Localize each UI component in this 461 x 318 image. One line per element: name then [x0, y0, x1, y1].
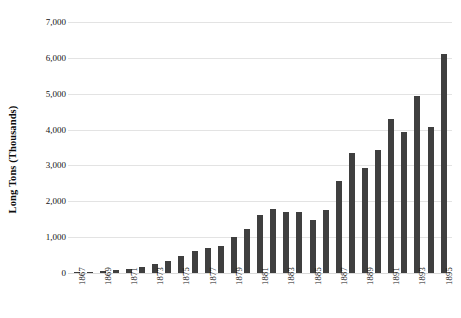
bar-slot [293, 22, 306, 273]
bar-slot [70, 22, 83, 273]
y-tick-label: 6,000 [26, 53, 66, 63]
x-tick-slot [240, 276, 253, 318]
bar-slot [122, 22, 135, 273]
bar [323, 210, 329, 273]
y-axis-title: Long Tons (Thousands) [0, 0, 26, 318]
x-tick-slot [162, 276, 175, 318]
x-tick-slot: 1887 [332, 276, 345, 318]
x-tick-slot [424, 276, 437, 318]
bar [87, 272, 93, 273]
y-axis-ticks: 7,0006,0005,0004,0003,0002,0001,0000 [26, 22, 66, 273]
bar [414, 96, 420, 273]
x-tick-slot [398, 276, 411, 318]
bar [296, 212, 302, 273]
x-tick-slot: 1867 [70, 276, 83, 318]
x-tick-slot [214, 276, 227, 318]
bar-slot [96, 22, 109, 273]
bar [388, 119, 394, 273]
bar [362, 168, 368, 273]
y-tick-label: 3,000 [26, 160, 66, 170]
bar-slot [411, 22, 424, 273]
bar-slot [372, 22, 385, 273]
bar [401, 132, 407, 273]
bar [270, 209, 276, 273]
bar-slot [201, 22, 214, 273]
bar [139, 267, 145, 273]
x-tick-slot [188, 276, 201, 318]
plot-area [68, 22, 452, 273]
x-tick-label: 1895 [444, 267, 454, 285]
bar-slot [398, 22, 411, 273]
y-tick-label: 1,000 [26, 232, 66, 242]
bar-slot [424, 22, 437, 273]
bar-slot [227, 22, 240, 273]
x-tick-slot: 1883 [280, 276, 293, 318]
bar-slot [162, 22, 175, 273]
x-tick-slot: 1885 [306, 276, 319, 318]
bar [192, 251, 198, 273]
x-tick-slot: 1869 [96, 276, 109, 318]
x-tick-slot: 1873 [149, 276, 162, 318]
bar-slot [267, 22, 280, 273]
x-tick-slot: 1893 [411, 276, 424, 318]
x-tick-slot: 1879 [227, 276, 240, 318]
x-axis-ticks: 1867186918711873187518771879188118831885… [68, 276, 452, 318]
x-tick-slot [109, 276, 122, 318]
bar-slot [149, 22, 162, 273]
x-tick-slot [136, 276, 149, 318]
bar-slot [306, 22, 319, 273]
x-tick-slot: 1875 [175, 276, 188, 318]
bar-slot [188, 22, 201, 273]
bar-slot [319, 22, 332, 273]
bar-slot [109, 22, 122, 273]
bar [283, 212, 289, 273]
y-axis-title-label: Long Tons (Thousands) [8, 105, 19, 213]
bar [349, 153, 355, 273]
x-tick-slot: 1891 [385, 276, 398, 318]
x-tick-slot: 1871 [122, 276, 135, 318]
bar [310, 220, 316, 273]
x-tick-slot [345, 276, 358, 318]
y-tick-label: 2,000 [26, 196, 66, 206]
bar-slot [214, 22, 227, 273]
bar-slot [332, 22, 345, 273]
y-tick-label: 5,000 [26, 89, 66, 99]
bar-slot [175, 22, 188, 273]
y-tick-label: 7,000 [26, 17, 66, 27]
bar [218, 246, 224, 273]
x-tick-slot [319, 276, 332, 318]
bar [375, 150, 381, 273]
bar-slot [254, 22, 267, 273]
bar [257, 215, 263, 273]
bar-slot [345, 22, 358, 273]
bar-chart: Long Tons (Thousands) 7,0006,0005,0004,0… [0, 0, 461, 318]
x-tick-slot: 1895 [437, 276, 450, 318]
x-tick-slot [372, 276, 385, 318]
bar-slot [280, 22, 293, 273]
x-tick-slot [83, 276, 96, 318]
y-tick-label: 0 [26, 268, 66, 278]
x-tick-slot [293, 276, 306, 318]
x-tick-slot: 1877 [201, 276, 214, 318]
bar-slot [385, 22, 398, 273]
bar [441, 54, 447, 273]
bar [165, 261, 171, 273]
bar-slot [240, 22, 253, 273]
bar [428, 127, 434, 273]
x-tick-slot: 1881 [254, 276, 267, 318]
x-tick-slot [267, 276, 280, 318]
bar [113, 270, 119, 273]
bar-slot [136, 22, 149, 273]
bar-slot [437, 22, 450, 273]
bar [244, 229, 250, 273]
bar [336, 181, 342, 274]
bar-series [68, 22, 452, 273]
x-tick-slot: 1889 [358, 276, 371, 318]
bar-slot [83, 22, 96, 273]
bar-slot [358, 22, 371, 273]
y-tick-label: 4,000 [26, 125, 66, 135]
